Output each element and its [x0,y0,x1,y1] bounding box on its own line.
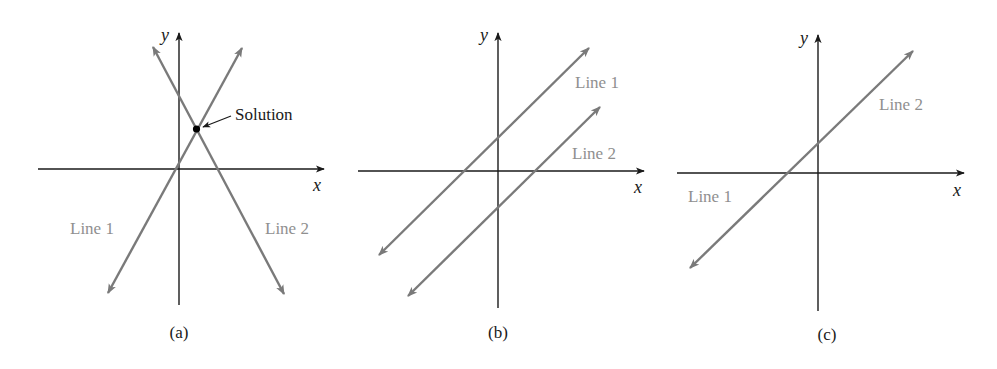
coincident-line [690,51,913,268]
y-axis-label: y [798,28,808,48]
line-2 [153,47,284,294]
x-axis-label: x [952,180,961,200]
line-1-label: Line 1 [688,187,732,206]
linear-systems-figure: Solution y x Line 1 Line 2 (a) y x Line … [0,0,997,369]
solution-pointer-arrow [203,116,231,127]
solution-point [193,125,200,132]
panel-caption: (b) [488,323,508,342]
solution-label: Solution [235,105,293,124]
y-axis-label: y [478,25,488,45]
x-axis-label: x [633,177,642,197]
line-2 [408,107,600,296]
y-axis-label: y [159,25,169,45]
line-2-label: Line 2 [879,95,923,114]
panel-caption: (a) [170,323,189,342]
line-1-label: Line 1 [575,73,619,92]
panel-c: y x Line 2 Line 1 (c) [677,28,964,344]
line-2-label: Line 2 [265,219,309,238]
line-1-label: Line 1 [70,219,114,238]
panel-b: y x Line 1 Line 2 (b) [358,25,644,342]
panel-caption: (c) [818,325,837,344]
line-1 [108,48,242,293]
line-1 [379,48,589,255]
x-axis-label: x [312,175,321,195]
line-2-label: Line 2 [572,144,616,163]
panel-a: Solution y x Line 1 Line 2 (a) [38,25,324,342]
